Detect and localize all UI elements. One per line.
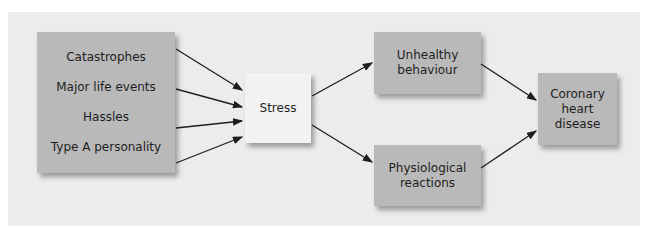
arrow-hassles-stress (176, 121, 242, 128)
arrow-unhealthy-chd (481, 64, 536, 100)
arrow-catastrophes-stress (176, 49, 242, 90)
arrow-physiological-chd (481, 131, 536, 168)
arrow-stress-physiological (312, 125, 372, 162)
arrows (0, 0, 658, 233)
arrow-life-events-stress (176, 89, 242, 107)
arrow-type-a-stress (176, 137, 242, 163)
arrow-stress-unhealthy (312, 63, 372, 96)
